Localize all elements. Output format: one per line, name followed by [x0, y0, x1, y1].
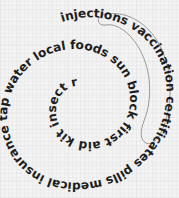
spiral-word-text: injections vaccination certificates pill…: [0, 0, 178, 194]
spiral-text-graphic: injections vaccination certificates pill…: [0, 0, 179, 198]
spiral-word-textpath: injections vaccination certificates pill…: [0, 0, 178, 194]
spiral-word-cloud-canvas: injections vaccination certificates pill…: [0, 0, 179, 198]
